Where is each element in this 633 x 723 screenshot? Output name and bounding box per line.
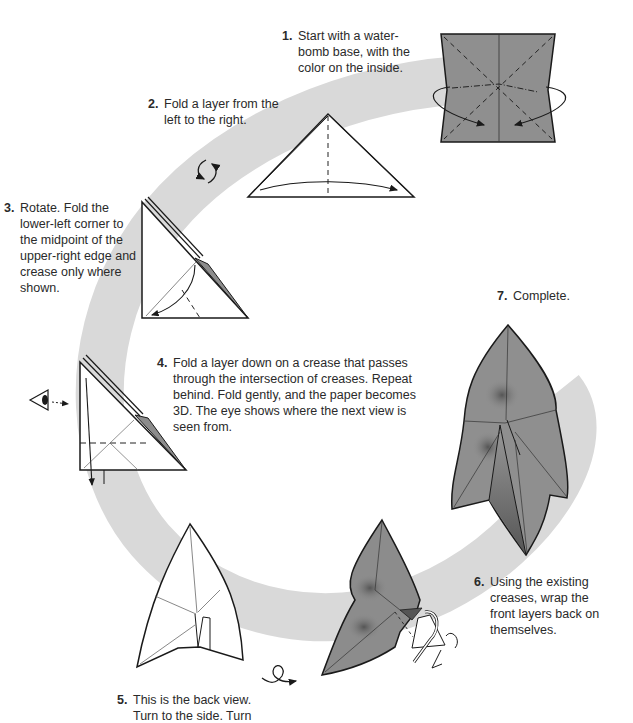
step-1-figure bbox=[433, 34, 565, 142]
step-5-instruction: 5. This is the back view. Turn to the si… bbox=[117, 692, 277, 723]
step-3-number: 3. bbox=[4, 200, 14, 216]
step-2-text: Fold a layer from the left to the right. bbox=[148, 96, 288, 128]
step-1-text: Start with a water-bomb base, with the c… bbox=[282, 28, 422, 76]
eye-icon bbox=[30, 390, 68, 410]
step-6-number: 6. bbox=[474, 574, 484, 590]
step-2-instruction: 2. Fold a layer from the left to the rig… bbox=[148, 96, 288, 128]
step-5-text: This is the back view. Turn to the side.… bbox=[117, 692, 277, 723]
step-6-text: Using the existing creases, wrap the fro… bbox=[474, 574, 604, 638]
step-7-number: 7. bbox=[497, 288, 507, 304]
turn-over-icon bbox=[262, 666, 296, 683]
step-4-text: Fold a layer down on a crease that passe… bbox=[157, 355, 423, 435]
step-3-instruction: 3. Rotate. Fold the lower-left corner to… bbox=[4, 200, 138, 296]
step-1-number: 1. bbox=[282, 28, 292, 44]
step-4-number: 4. bbox=[157, 355, 167, 371]
step-2-number: 2. bbox=[148, 96, 158, 112]
step-1-instruction: 1. Start with a water-bomb base, with th… bbox=[282, 28, 422, 76]
step-6-instruction: 6. Using the existing creases, wrap the … bbox=[474, 574, 604, 638]
step-7-instruction: 7. Complete. bbox=[497, 288, 617, 304]
step-5-number: 5. bbox=[117, 692, 127, 708]
step-3-text: Rotate. Fold the lower-left corner to th… bbox=[4, 200, 138, 296]
step-7-text: Complete. bbox=[497, 288, 617, 304]
step-4-instruction: 4. Fold a layer down on a crease that pa… bbox=[157, 355, 423, 435]
